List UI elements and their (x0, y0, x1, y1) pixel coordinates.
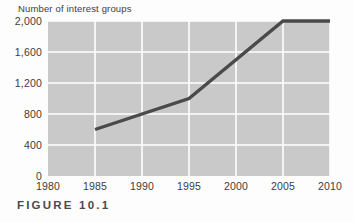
y-axis-tick-label: 2,000 (0, 15, 42, 27)
x-axis-tick-label: 2005 (260, 180, 306, 192)
y-axis-tick-label: 1,600 (0, 46, 42, 58)
plot-area (48, 21, 330, 176)
x-axis-tick-label: 1980 (25, 180, 71, 192)
figure-caption: FIGURE 10.1 (17, 199, 110, 211)
y-axis-title: Number of interest groups (18, 3, 132, 14)
x-axis-tick-label: 2000 (213, 180, 259, 192)
x-axis-tick-label: 1985 (72, 180, 118, 192)
x-axis-tick-label: 1990 (119, 180, 165, 192)
x-axis-tick-label: 2010 (307, 180, 353, 192)
y-axis-tick-label: 800 (0, 108, 42, 120)
data-series-line (48, 21, 330, 176)
series-polyline (95, 21, 330, 130)
y-axis-tick-label: 1,200 (0, 77, 42, 89)
y-axis-tick-label: 400 (0, 139, 42, 151)
figure-container: Number of interest groups 04008001,2001,… (0, 0, 353, 222)
x-axis-tick-label: 1995 (166, 180, 212, 192)
